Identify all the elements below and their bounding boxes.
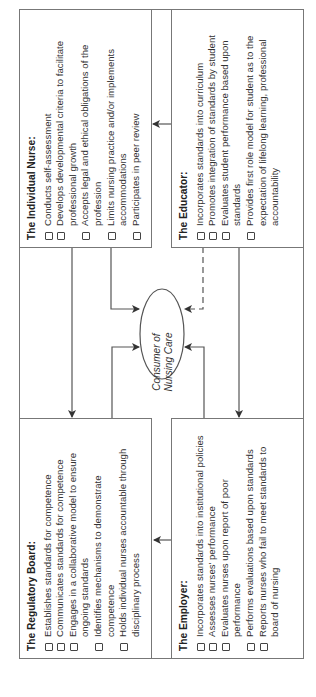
item-text: Identifies mechanisms to demonstrate com…: [92, 475, 116, 637]
list-item: Evaluates nurses upon report of poor per…: [219, 425, 244, 651]
item-text: Holds individual nurses accountable thro…: [117, 449, 141, 637]
checkbox-icon: [45, 232, 53, 240]
item-text: Reports nurses who fail to meet standard…: [257, 447, 281, 637]
checkbox-icon: [209, 643, 217, 651]
checkbox-icon: [45, 643, 53, 651]
checkbox-icon: [82, 232, 90, 240]
item-text: Evaluates nurses upon report of poor per…: [219, 479, 243, 637]
checkbox-icon: [260, 643, 268, 651]
list-item: Limits nursing practice and/or implement…: [105, 16, 130, 240]
checkbox-icon: [222, 232, 230, 240]
item-text: Develops developmental criteria to facil…: [54, 41, 78, 226]
arrow-nurse-to-consumer: [111, 247, 139, 309]
item-text: Evaluates student performance based upon…: [219, 40, 243, 226]
diagram-canvas: Consumer of Nursing Care The Regulatory …: [0, 0, 316, 697]
checkbox-icon: [209, 232, 217, 240]
item-text: Incorporates standards into institutiona…: [194, 435, 205, 637]
arrow-employer-to-consumer: [185, 347, 204, 419]
arrow-educator-to-consumer: [185, 247, 203, 309]
checkbox-icon: [197, 643, 205, 651]
item-text: Accepts legal and ethical obligations of…: [79, 45, 103, 226]
list-item: Develops developmental criteria to facil…: [54, 16, 79, 240]
employer-title: The Employer:: [178, 425, 191, 651]
checkbox-icon: [70, 643, 78, 651]
consumer-of-nursing-care-label: Consumer of Nursing Care: [141, 316, 185, 408]
regulatory-board-title: The Regulatory Board:: [26, 425, 39, 651]
list-item: Assesses nurses' performance: [206, 425, 219, 651]
list-item: Reports nurses who fail to meet standard…: [257, 425, 282, 651]
list-item: Communicates standards for competence: [54, 425, 67, 651]
checkbox-icon: [120, 643, 128, 651]
item-text: Promotes integration of standards by stu…: [206, 35, 217, 226]
checkbox-icon: [247, 232, 255, 240]
list-item: Performs evaluations based upon standard…: [244, 425, 257, 651]
individual-nurse-title: The Individual Nurse:: [26, 16, 39, 240]
item-text: Conducts self-assessment: [42, 113, 53, 226]
list-item: Incorporates standards into curriculum: [194, 16, 207, 240]
regulatory-board-list: Establishes standards for competence Com…: [42, 425, 143, 651]
item-text: Establishes standards for competence: [42, 474, 53, 637]
list-item: Promotes integration of standards by stu…: [206, 16, 219, 240]
educator-title: The Educator:: [178, 16, 191, 240]
item-text: Assesses nurses' performance: [206, 506, 217, 637]
consumer-label-line1: Consumer of: [151, 333, 163, 390]
list-item: Participates in peer review: [130, 16, 143, 240]
checkbox-icon: [57, 232, 65, 240]
checkbox-icon: [57, 643, 65, 651]
individual-nurse-list: Conducts self-assessment Develops develo…: [42, 16, 143, 240]
item-text: Provides first role model for student as…: [244, 36, 280, 226]
consumer-label-line2: Nursing Care: [163, 333, 175, 392]
list-item: Accepts legal and ethical obligations of…: [79, 16, 104, 240]
employer-list: Incorporates standards into institutiona…: [194, 425, 282, 651]
list-item: Provides first role model for student as…: [244, 16, 282, 240]
list-item: Conducts self-assessment: [42, 16, 55, 240]
checkbox-icon: [95, 643, 103, 651]
employer-box: The Employer: Incorporates standards int…: [171, 418, 304, 659]
item-text: Limits nursing practice and/or implement…: [105, 49, 129, 226]
checkbox-icon: [108, 232, 116, 240]
list-item: Holds individual nurses accountable thro…: [117, 425, 142, 651]
educator-list: Incorporates standards into curriculum P…: [194, 16, 282, 240]
checkbox-icon: [247, 643, 255, 651]
educator-box: The Educator: Incorporates standards int…: [171, 9, 304, 248]
individual-nurse-box: The Individual Nurse: Conducts self-asse…: [19, 9, 152, 248]
checkbox-icon: [222, 643, 230, 651]
checkbox-icon: [133, 232, 141, 240]
item-text: Incorporates standards into curriculum: [194, 63, 205, 226]
list-item: Establishes standards for competence: [42, 425, 55, 651]
regulatory-board-box: The Regulatory Board: Establishes standa…: [19, 418, 152, 659]
item-text: Participates in peer review: [130, 113, 141, 226]
item-text: Engages in a collaborative model to ensu…: [67, 453, 91, 637]
list-item: Engages in a collaborative model to ensu…: [67, 425, 92, 651]
arrow-board-to-consumer: [112, 347, 139, 419]
list-item: Incorporates standards into institutiona…: [194, 425, 207, 651]
list-item: Identifies mechanisms to demonstrate com…: [92, 425, 117, 651]
checkbox-icon: [197, 232, 205, 240]
item-text: Communicates standards for competence: [54, 459, 65, 637]
item-text: Performs evaluations based upon standard…: [244, 449, 255, 637]
list-item: Evaluates student performance based upon…: [219, 16, 244, 240]
